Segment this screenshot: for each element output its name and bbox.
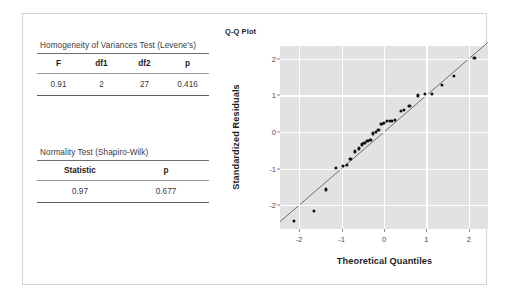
- gridline-vertical: [299, 46, 300, 229]
- x-tick-mark: [299, 229, 300, 232]
- qq-plot-chart: Q-Q Plot Standardized Residuals Theoreti…: [219, 14, 487, 284]
- table-header-row: F df1 df2 p: [37, 54, 209, 74]
- x-tick-label: 1: [411, 235, 441, 244]
- shapiro-table-caption: Normality Test (Shapiro-Wilk): [37, 148, 209, 160]
- gridline-horizontal: [280, 59, 488, 60]
- x-tick-label: 0: [369, 235, 399, 244]
- column-header-df1: df1: [80, 54, 123, 74]
- report-frame: Homogeneity of Variances Test (Levene's)…: [22, 13, 487, 285]
- column-header-p: p: [166, 54, 209, 74]
- y-tick-mark: [277, 168, 280, 169]
- y-tick-mark: [277, 132, 280, 133]
- plot-panel: -2-1012-2-1012: [280, 46, 488, 229]
- x-tick-mark: [469, 229, 470, 232]
- gridline-horizontal: [280, 132, 488, 133]
- y-tick-label: -1: [242, 164, 276, 173]
- x-tick-label: 2: [454, 235, 484, 244]
- gridline-horizontal: [280, 169, 488, 170]
- column-header-f: F: [37, 54, 80, 74]
- y-tick-mark: [277, 58, 280, 59]
- table-spacer: [37, 96, 219, 148]
- shapiro-wilk-table: Statistic p 0.97 0.677: [37, 160, 209, 203]
- table-header-row: Statistic p: [37, 161, 209, 181]
- x-axis-label: Theoretical Quantiles: [280, 256, 489, 266]
- x-tick-mark: [342, 229, 343, 232]
- cell-p-value: 0.416: [166, 74, 209, 96]
- y-tick-label: 1: [242, 91, 276, 100]
- levene-test-table-block: Homogeneity of Variances Test (Levene's)…: [37, 41, 209, 96]
- y-tick-label: -2: [242, 201, 276, 210]
- gridline-vertical: [384, 46, 385, 229]
- tables-column: Homogeneity of Variances Test (Levene's)…: [37, 41, 219, 203]
- levene-test-table: F df1 df2 p 0.91 2 27 0.416: [37, 53, 209, 96]
- gridline-horizontal: [280, 205, 488, 206]
- column-header-df2: df2: [123, 54, 166, 74]
- shapiro-test-table-block: Normality Test (Shapiro-Wilk) Statistic …: [37, 148, 209, 203]
- y-tick-mark: [277, 95, 280, 96]
- cell-df1-value: 2: [80, 74, 123, 96]
- x-tick-label: -2: [284, 235, 314, 244]
- x-tick-mark: [426, 229, 427, 232]
- cell-p-value: 0.677: [123, 181, 209, 203]
- gridline-horizontal: [280, 95, 488, 96]
- table-row: 0.97 0.677: [37, 181, 209, 203]
- y-tick-mark: [277, 205, 280, 206]
- column-header-statistic: Statistic: [37, 161, 123, 181]
- table-row: 0.91 2 27 0.416: [37, 74, 209, 96]
- x-tick-label: -1: [327, 235, 357, 244]
- plot-wrapper: Standardized Residuals Theoretical Quant…: [219, 44, 487, 279]
- y-axis-label: Standardized Residuals: [231, 62, 241, 212]
- x-tick-mark: [384, 229, 385, 232]
- column-header-p: p: [123, 161, 209, 181]
- y-tick-label: 0: [242, 128, 276, 137]
- gridline-vertical: [469, 46, 470, 229]
- cell-df2-value: 27: [123, 74, 166, 96]
- chart-title: Q-Q Plot: [225, 27, 256, 36]
- gridline-vertical: [342, 46, 343, 229]
- cell-f-value: 0.91: [37, 74, 80, 96]
- gridline-vertical: [426, 46, 427, 229]
- levene-table-caption: Homogeneity of Variances Test (Levene's): [37, 41, 209, 53]
- cell-statistic-value: 0.97: [37, 181, 123, 203]
- y-tick-label: 2: [242, 54, 276, 63]
